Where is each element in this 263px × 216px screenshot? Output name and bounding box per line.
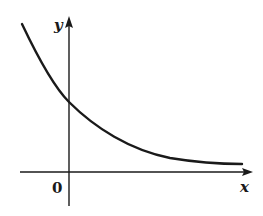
origin-label: 0 (52, 179, 62, 197)
y-axis-label: y (53, 16, 64, 34)
x-axis (20, 168, 253, 176)
exponential-decay-graph: y x 0 (0, 0, 263, 216)
decay-curve (22, 24, 242, 164)
y-axis (65, 16, 73, 206)
x-axis-label: x (239, 178, 250, 196)
